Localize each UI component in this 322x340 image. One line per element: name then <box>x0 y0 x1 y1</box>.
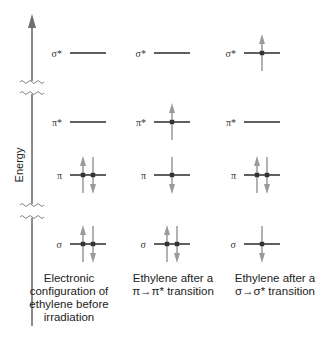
level-sigma: σ <box>141 225 190 263</box>
electron-spin-down-icon <box>90 157 96 194</box>
electron-dot <box>265 173 269 177</box>
level-label: σ* <box>52 48 62 59</box>
level-sigma_star: σ* <box>226 34 280 71</box>
caption-line: Ethylene after a <box>118 272 228 285</box>
level-pi: π <box>141 157 190 194</box>
caption-line: Ethylene after a <box>220 272 322 285</box>
column-ground-state: σ*π*πσ <box>52 48 106 264</box>
level-label: σ* <box>226 48 236 59</box>
electron-dot <box>91 242 95 246</box>
electron-spin-up-icon <box>80 225 86 262</box>
level-sigma: σ <box>231 226 280 263</box>
caption-line: configuration of <box>14 285 124 298</box>
level-pi_star: π* <box>226 117 280 128</box>
electron-dot <box>260 51 264 55</box>
energy-axis-label: Energy <box>13 147 25 182</box>
electron-dot <box>91 173 95 177</box>
electron-spin-down-icon <box>174 226 180 263</box>
caption-line: σ→σ* transition <box>220 285 322 298</box>
electron-dot <box>260 242 264 246</box>
level-label: σ <box>141 239 147 250</box>
caption-sigma-sigma-star: Ethylene after aσ→σ* transition <box>220 272 322 298</box>
electron-spin-up-icon <box>254 156 260 193</box>
caption-line: π→π* transition <box>118 285 228 298</box>
level-sigma_star: σ* <box>52 48 106 59</box>
level-label: π <box>231 170 236 181</box>
caption-ground-state: Electronicconfiguration ofethylene befor… <box>14 272 124 324</box>
level-label: π* <box>52 117 62 128</box>
electron-spin-up-icon <box>80 156 86 193</box>
level-label: π* <box>226 117 236 128</box>
level-pi: π <box>57 156 106 194</box>
level-label: π <box>141 170 146 181</box>
electron-spin-down-icon <box>264 157 270 194</box>
electron-dot <box>165 242 169 246</box>
electron-dot <box>170 120 174 124</box>
electron-dot <box>81 242 85 246</box>
level-sigma_star: σ* <box>136 48 190 59</box>
energy-levels: σ*π*πσσ*π*πσσ*π*πσ <box>52 34 280 263</box>
electron-dot <box>175 242 179 246</box>
electron-dot <box>170 173 174 177</box>
level-sigma: σ <box>57 225 106 263</box>
electron-spin-down-icon <box>90 226 96 263</box>
caption-line: irradiation <box>14 311 124 324</box>
electron-spin-down-icon <box>169 157 175 194</box>
electron-dot <box>81 173 85 177</box>
level-label: π <box>57 170 62 181</box>
level-pi_star: π* <box>136 103 190 140</box>
caption-pi-pi-star: Ethylene after aπ→π* transition <box>118 272 228 298</box>
level-pi_star: π* <box>52 117 106 128</box>
level-pi: π <box>231 156 280 194</box>
level-label: σ* <box>136 48 146 59</box>
electron-spin-up-icon <box>259 34 265 71</box>
column-sigma-sigma-star: σ*π*πσ <box>226 34 280 263</box>
column-pi-pi-star: σ*π*πσ <box>136 48 190 264</box>
level-label: σ <box>57 239 63 250</box>
caption-line: ethylene before <box>14 298 124 311</box>
electron-spin-down-icon <box>259 226 265 263</box>
level-label: σ <box>231 239 237 250</box>
electron-spin-up-icon <box>169 103 175 140</box>
electron-dot <box>255 173 259 177</box>
electron-spin-up-icon <box>164 225 170 262</box>
level-label: π* <box>136 117 146 128</box>
caption-line: Electronic <box>14 272 124 285</box>
axis-arrowhead-icon <box>28 14 36 28</box>
